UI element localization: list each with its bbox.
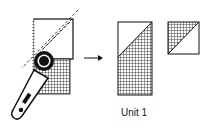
arrow-right-icon [84,55,103,61]
diagram-canvas [0,0,210,140]
unit-1-piece [118,22,152,95]
triangle-piece [168,22,199,54]
unit-caption: Unit 1 [121,107,147,118]
